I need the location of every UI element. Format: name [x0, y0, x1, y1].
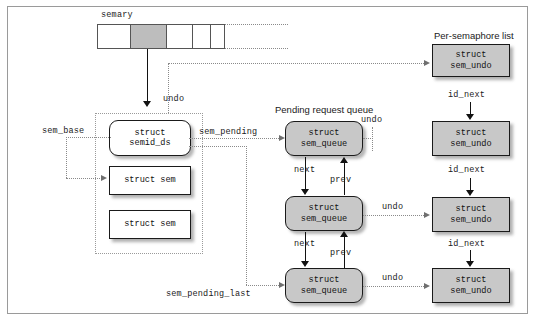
prev-label-1: prev: [330, 176, 351, 186]
sem-pending-last-dotted-right: [246, 285, 281, 286]
id-next-arrowhead-3: [466, 261, 474, 267]
semary-cell-2[interactable]: [166, 24, 192, 49]
semary-continuation-bottom: [225, 48, 288, 49]
struct-sem-1-label: struct sem: [124, 175, 176, 186]
semary-cell-0[interactable]: [97, 24, 130, 49]
undo-label-q2: undo: [382, 203, 403, 213]
sem-queue-2-line2: sem_queue: [301, 214, 347, 225]
next-arrowhead-2: [301, 261, 309, 267]
sem-pending-last-label: sem_pending_last: [166, 290, 251, 300]
id-next-label-1: id_next: [448, 91, 485, 101]
sem-queue-1-line2: sem_queue: [301, 139, 347, 150]
struct-sem-undo-3[interactable]: struct sem_undo: [432, 197, 510, 232]
next-line-1: [305, 157, 306, 190]
sem-pending-last-dotted-vertical: [246, 146, 247, 285]
undo-q2-arrowhead: [424, 212, 430, 218]
semary-cell-4[interactable]: [210, 24, 225, 49]
next-line-2: [305, 232, 306, 262]
semary-to-semid-ds-arrowhead: [143, 101, 151, 107]
struct-sem-queue-3[interactable]: struct sem_queue: [285, 268, 363, 303]
sem-undo-1-line1: struct: [456, 50, 487, 61]
diagram-canvas: semary undo struct semid_ds struct sem s…: [0, 0, 538, 327]
next-arrowhead-1: [301, 189, 309, 195]
sem-base-arrowhead: [101, 175, 107, 181]
prev-label-2: prev: [330, 249, 351, 259]
semid-ds-line2: semid_ds: [129, 138, 170, 149]
struct-sem-undo-4[interactable]: struct sem_undo: [432, 268, 510, 303]
id-next-arrowhead-1: [466, 114, 474, 120]
sem-pending-label: sem_pending: [199, 128, 257, 138]
semary-array: [97, 24, 225, 49]
struct-sem-2-label: struct sem: [124, 219, 176, 230]
sem-undo-4-line1: struct: [456, 275, 487, 286]
prev-arrowhead-1: [340, 157, 348, 163]
pending-request-queue-title: Pending request queue: [275, 105, 373, 116]
undo-arrowhead-semary: [424, 60, 430, 66]
sem-pending-dotted: [189, 138, 281, 139]
sem-queue-3-line2: sem_queue: [301, 286, 347, 297]
sem-undo-2-line2: sem_undo: [450, 139, 491, 150]
sem-undo-4-line2: sem_undo: [450, 286, 491, 297]
sem-queue-2-line1: struct: [309, 203, 340, 214]
undo-q2-dotted: [363, 215, 426, 216]
struct-sem-undo-2[interactable]: struct sem_undo: [432, 121, 510, 156]
id-next-arrowhead-2: [466, 190, 474, 196]
semary-label: semary: [101, 11, 133, 21]
prev-line-1: [344, 163, 345, 195]
sem-base-dotted-vertical: [66, 137, 67, 178]
struct-sem-2[interactable]: struct sem: [109, 210, 191, 239]
sem-base-dotted-right: [66, 178, 104, 179]
sem-undo-1-line2: sem_undo: [450, 61, 491, 72]
undo-horizontal-dotted: [168, 63, 426, 64]
semid-ds-line1: struct: [135, 128, 166, 139]
undo-vertical-dotted: [168, 63, 169, 113]
sem-undo-2-line1: struct: [456, 128, 487, 139]
semary-to-semid-ds-line: [147, 49, 148, 104]
sem-undo-3-line2: sem_undo: [450, 215, 491, 226]
sem-pending-last-dotted-top: [189, 146, 247, 147]
undo-q3-dotted: [363, 286, 426, 287]
sem-queue-1-line1: struct: [309, 128, 340, 139]
semary-cell-3[interactable]: [192, 24, 210, 49]
struct-semid-ds[interactable]: struct semid_ds: [109, 120, 191, 156]
undo-q3-arrowhead: [424, 283, 430, 289]
per-semaphore-list-title: Per-semaphore list: [434, 31, 514, 42]
sem-base-label: sem_base: [42, 127, 84, 137]
struct-sem-1[interactable]: struct sem: [109, 166, 191, 195]
prev-arrowhead-2: [340, 231, 348, 237]
semary-continuation-top: [225, 24, 288, 25]
struct-sem-undo-1[interactable]: struct sem_undo: [432, 44, 510, 77]
prev-line-2: [344, 237, 345, 268]
struct-sem-queue-2[interactable]: struct sem_queue: [285, 196, 363, 231]
sem-base-dotted-left: [66, 137, 111, 138]
undo-label-q3: undo: [382, 274, 403, 284]
id-next-label-3: id_next: [448, 240, 485, 250]
undo-label-q1: undo: [361, 116, 382, 126]
sem-queue-3-line1: struct: [309, 275, 340, 286]
undo-q1-dotted-v: [372, 127, 373, 151]
undo-label-semary: undo: [163, 95, 184, 105]
id-next-label-2: id_next: [448, 166, 485, 176]
struct-sem-queue-1[interactable]: struct sem_queue: [285, 121, 363, 156]
sem-undo-3-line1: struct: [456, 204, 487, 215]
semary-cell-1[interactable]: [130, 24, 166, 49]
